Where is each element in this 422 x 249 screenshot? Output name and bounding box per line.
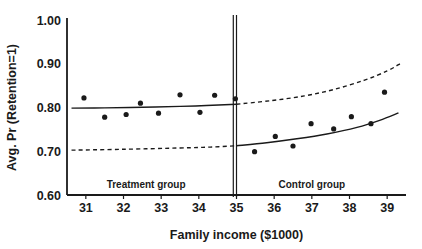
y-tick-label: 0.80	[37, 101, 61, 115]
data-point	[81, 95, 86, 100]
x-tick-label: 34	[192, 201, 206, 215]
data-point	[124, 112, 129, 117]
x-tick-label: 32	[117, 201, 131, 215]
data-point	[212, 93, 217, 98]
control-group-label: Control group	[279, 179, 346, 190]
y-axis-title: Avg. Pr (Retention=1)	[5, 44, 19, 171]
y-tick-label: 0.90	[37, 57, 61, 71]
fitted-line	[237, 113, 399, 146]
data-point	[138, 101, 143, 106]
y-tick-label: 1.00	[37, 14, 61, 28]
regression-discontinuity-chart: 0.600.700.800.901.00313233343536373839Fa…	[0, 0, 422, 249]
x-tick-label: 39	[380, 201, 394, 215]
counterfactual-line	[237, 64, 401, 105]
data-point	[252, 149, 257, 154]
data-point	[273, 134, 278, 139]
x-tick-label: 36	[267, 201, 281, 215]
chart-figure: 0.600.700.800.901.00313233343536373839Fa…	[0, 0, 422, 249]
x-tick-label: 37	[305, 201, 319, 215]
treatment-group-label: Treatment group	[107, 179, 186, 190]
data-point	[382, 90, 387, 95]
fitted-line	[72, 104, 237, 108]
data-point	[349, 114, 354, 119]
data-point	[290, 143, 295, 148]
counterfactual-line	[72, 146, 237, 150]
data-point	[177, 92, 182, 97]
data-point	[156, 111, 161, 116]
y-tick-label: 0.60	[37, 189, 61, 203]
data-point	[197, 110, 202, 115]
x-tick-label: 31	[79, 201, 93, 215]
y-tick-label: 0.70	[37, 145, 61, 159]
data-point	[233, 96, 238, 101]
data-point	[368, 121, 373, 126]
x-tick-label: 35	[230, 201, 244, 215]
data-point	[331, 126, 336, 131]
data-point	[102, 115, 107, 120]
x-tick-label: 33	[154, 201, 168, 215]
data-point	[308, 121, 313, 126]
x-axis-title: Family income ($1000)	[170, 228, 303, 242]
x-tick-label: 38	[343, 201, 357, 215]
